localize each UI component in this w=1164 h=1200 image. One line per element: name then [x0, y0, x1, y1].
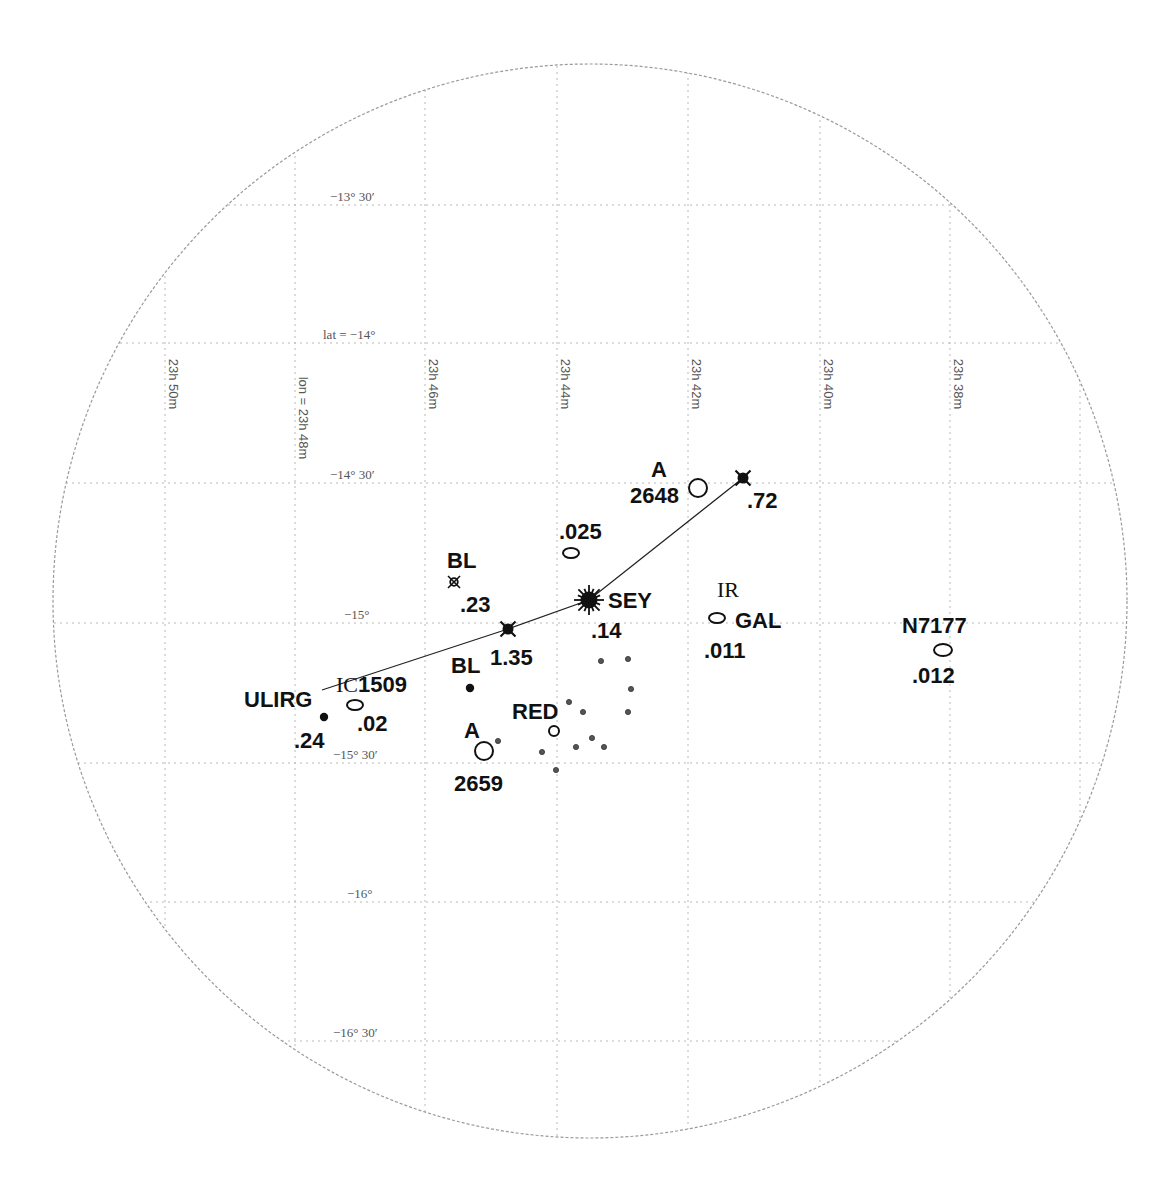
lat-label: −15° 30′: [333, 747, 378, 762]
object-qso-135[interactable]: [501, 622, 516, 637]
cluster-circle-icon: [689, 479, 707, 497]
object-label: .23: [460, 592, 491, 617]
lat-label: −14° 30′: [330, 467, 375, 482]
object-label: BL: [447, 548, 476, 573]
object-label: N7177: [902, 613, 967, 638]
red-galaxy-circle-icon: [549, 726, 559, 736]
companion-dot: [580, 709, 585, 714]
companion-dot: [573, 744, 578, 749]
companion-dot: [566, 699, 571, 704]
companion-dot: [539, 749, 544, 754]
object-label: IC1509: [336, 672, 407, 697]
object-gal-025[interactable]: [563, 548, 579, 558]
lon-label: 23h 40m: [821, 359, 836, 410]
lat-label: −16° 30′: [333, 1025, 378, 1040]
companion-dot: [601, 744, 606, 749]
companion-dot: [598, 658, 603, 663]
lon-label: 23h 44m: [558, 359, 573, 410]
object-label: A: [464, 718, 480, 743]
object-label: SEY: [608, 588, 652, 613]
dot-marker-icon: [320, 713, 328, 721]
galaxy-ellipse-icon: [347, 700, 363, 710]
object-label: .025: [559, 519, 602, 544]
object-label: .14: [591, 618, 622, 643]
object-qso-072[interactable]: [736, 471, 751, 486]
lon-label: lon = 23h 48m: [296, 377, 311, 460]
lon-label: 23h 36m: [1081, 359, 1096, 410]
galaxy-ellipse-icon: [709, 613, 725, 623]
object-red[interactable]: [549, 726, 559, 736]
object-label: RED: [512, 699, 558, 724]
object-label: ULIRG: [244, 687, 312, 712]
object-label: GAL: [735, 608, 781, 633]
object-label: .72: [747, 488, 778, 513]
lon-label: 23h 42m: [689, 359, 704, 410]
lat-label: −15°: [344, 607, 370, 622]
object-label: 2659: [454, 771, 503, 796]
lat-label: −13° 30′: [330, 189, 375, 204]
object-label: 1.35: [490, 645, 533, 670]
companion-dot: [495, 738, 500, 743]
galaxy-ellipse-icon: [934, 644, 952, 656]
sky-chart: −13° 30′lat = −14°−14° 30′−15°−15° 30′−1…: [0, 0, 1164, 1200]
lon-label: 23h 50m: [166, 359, 181, 410]
object-label: A: [651, 457, 667, 482]
object-n7177[interactable]: [934, 644, 952, 656]
object-label: .011: [704, 638, 746, 663]
object-bl-dot[interactable]: [466, 684, 474, 692]
cluster-circle-icon: [475, 742, 493, 760]
longitude-labels: 23h 50mlon = 23h 48m23h 46m23h 44m23h 42…: [166, 359, 1096, 460]
object-label: .02: [357, 711, 388, 736]
companion-dot: [625, 656, 630, 661]
companion-dot: [628, 686, 633, 691]
galaxy-ellipse-icon: [563, 548, 579, 558]
sky-objects: [320, 471, 952, 761]
seyfert-burst-icon: [581, 592, 598, 609]
companion-dot: [625, 709, 630, 714]
object-seyfert[interactable]: [574, 585, 604, 615]
dot-marker-icon: [466, 684, 474, 692]
object-label: BL: [451, 653, 480, 678]
object-bl-023[interactable]: [448, 576, 460, 588]
lon-label: 23h 46m: [426, 359, 441, 410]
object-ic1509[interactable]: [347, 700, 363, 710]
object-label: IR: [717, 577, 739, 602]
lat-label: −16°: [347, 886, 373, 901]
object-ulirg[interactable]: [320, 713, 328, 721]
object-label: .24: [294, 728, 325, 753]
latitude-labels: −13° 30′lat = −14°−14° 30′−15°−15° 30′−1…: [323, 189, 378, 1040]
lat-label: lat = −14°: [323, 327, 375, 342]
object-label: 2648: [630, 483, 679, 508]
lon-label: 23h 38m: [951, 359, 966, 410]
companion-dot: [553, 767, 558, 772]
object-ir-gal[interactable]: [709, 613, 725, 623]
object-label: .012: [912, 663, 955, 688]
object-abell-2648[interactable]: [689, 479, 707, 497]
companion-dot: [589, 735, 594, 740]
object-abell-2659[interactable]: [475, 742, 493, 760]
